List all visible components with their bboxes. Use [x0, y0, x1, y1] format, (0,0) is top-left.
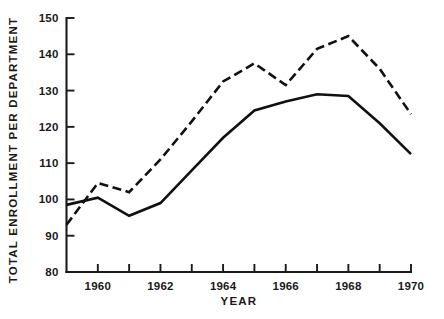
- line-chart: 8090100110120130140150 19601962196419661…: [0, 0, 444, 319]
- y-tick-label: 110: [39, 157, 58, 169]
- x-tick-label: 1966: [273, 280, 299, 292]
- y-tick-label: 120: [39, 121, 59, 133]
- chart-container: 8090100110120130140150 19601962196419661…: [0, 0, 444, 319]
- x-axis-tick-labels: 196019621964196619681970: [85, 280, 425, 292]
- y-tick-label: 140: [39, 48, 59, 60]
- x-tick-label: 1960: [85, 280, 111, 292]
- y-tick-label: 90: [45, 230, 58, 242]
- x-axis-title: YEAR: [221, 295, 258, 307]
- y-axis-tick-labels: 8090100110120130140150: [39, 12, 59, 278]
- x-tick-label: 1962: [147, 280, 173, 292]
- data-series-solid: [67, 94, 412, 216]
- x-tick-label: 1964: [210, 280, 237, 292]
- y-tick-label: 80: [45, 266, 58, 278]
- data-series-dashed: [67, 36, 412, 225]
- y-axis-ticks: [67, 18, 75, 272]
- y-tick-label: 100: [39, 193, 59, 205]
- x-axis-ticks: [98, 264, 411, 272]
- y-tick-label: 130: [39, 85, 59, 97]
- y-tick-label: 150: [39, 12, 59, 24]
- x-tick-label: 1970: [398, 280, 424, 292]
- y-axis-title: TOTAL ENROLLMENT PER DEPARTMENT: [7, 17, 19, 283]
- x-tick-label: 1968: [335, 280, 362, 292]
